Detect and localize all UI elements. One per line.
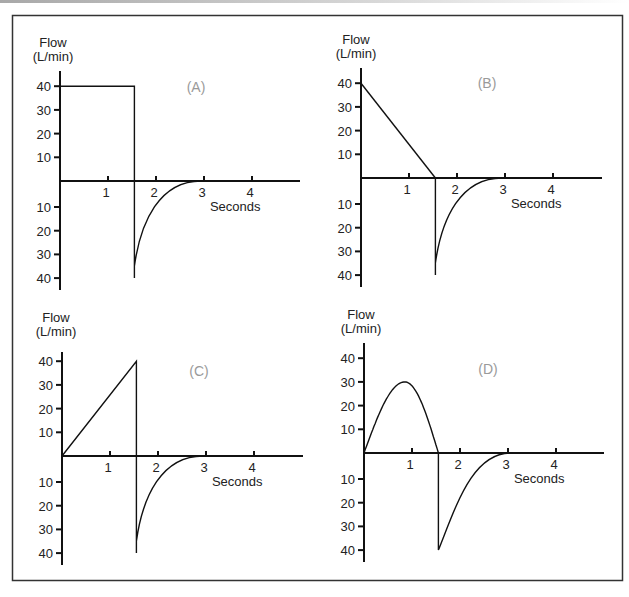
y-tick-label: 10 xyxy=(39,425,53,440)
x-tick-label: 1 xyxy=(104,460,111,475)
y-tick-label: 40 xyxy=(341,351,355,366)
y-tick-label: 20 xyxy=(338,221,352,236)
x-tick-label: 2 xyxy=(454,457,461,472)
figure-canvas: Flow(L/min)(A)40302010102030401234Second… xyxy=(0,0,629,597)
y-tick-label: 10 xyxy=(341,472,355,487)
y-tick-label: 30 xyxy=(39,378,53,393)
x-tick-label: 4 xyxy=(248,460,255,475)
x-tick-label: 1 xyxy=(406,457,413,472)
y-axis-title: Flow xyxy=(42,310,70,325)
y-tick-label: 30 xyxy=(341,375,355,390)
y-axis-units: (L/min) xyxy=(33,49,73,64)
y-tick-label: 40 xyxy=(39,354,53,369)
y-tick-label: 30 xyxy=(37,247,51,262)
y-tick-label: 30 xyxy=(338,244,352,259)
y-tick-label: 30 xyxy=(338,100,352,115)
y-tick-label: 10 xyxy=(338,147,352,162)
x-axis-title: Seconds xyxy=(210,199,261,214)
y-tick-label: 10 xyxy=(37,150,51,165)
y-tick-label: 40 xyxy=(37,79,51,94)
panel-label: (D) xyxy=(478,361,497,377)
y-tick-label: 20 xyxy=(39,402,53,417)
figure-frame xyxy=(13,16,623,581)
y-tick-label: 40 xyxy=(39,546,53,561)
y-tick-label: 20 xyxy=(341,399,355,414)
panel-label: (A) xyxy=(187,79,206,95)
y-tick-label: 20 xyxy=(39,499,53,514)
panel-label: (C) xyxy=(189,363,208,379)
y-tick-label: 40 xyxy=(341,543,355,558)
y-tick-label: 20 xyxy=(37,127,51,142)
y-tick-label: 10 xyxy=(37,200,51,215)
x-tick-label: 2 xyxy=(152,460,159,475)
y-tick-label: 40 xyxy=(37,271,51,286)
x-axis-title: Seconds xyxy=(212,474,263,489)
y-tick-label: 30 xyxy=(37,103,51,118)
y-axis-units: (L/min) xyxy=(36,324,76,339)
x-tick-label: 2 xyxy=(150,185,157,200)
y-tick-label: 30 xyxy=(341,519,355,534)
y-tick-label: 20 xyxy=(341,496,355,511)
y-axis-units: (L/min) xyxy=(336,46,376,61)
x-tick-label: 3 xyxy=(200,460,207,475)
x-tick-label: 3 xyxy=(499,182,506,197)
y-tick-label: 40 xyxy=(338,268,352,283)
x-tick-label: 3 xyxy=(198,185,205,200)
x-tick-label: 4 xyxy=(547,182,554,197)
x-tick-label: 1 xyxy=(403,182,410,197)
panel-label: (B) xyxy=(478,75,497,91)
x-tick-label: 2 xyxy=(451,182,458,197)
x-axis-title: Seconds xyxy=(514,471,565,486)
x-axis-title: Seconds xyxy=(511,196,562,211)
x-tick-label: 3 xyxy=(502,457,509,472)
y-tick-label: 30 xyxy=(39,522,53,537)
x-tick-label: 4 xyxy=(246,185,253,200)
y-tick-label: 20 xyxy=(37,224,51,239)
y-tick-label: 10 xyxy=(341,422,355,437)
y-tick-label: 40 xyxy=(338,76,352,91)
x-tick-label: 4 xyxy=(550,457,557,472)
y-tick-label: 10 xyxy=(39,475,53,490)
y-axis-title: Flow xyxy=(347,307,375,322)
y-tick-label: 10 xyxy=(338,197,352,212)
y-axis-title: Flow xyxy=(39,35,67,50)
y-axis-units: (L/min) xyxy=(341,321,381,336)
y-axis-title: Flow xyxy=(342,32,370,47)
x-tick-label: 1 xyxy=(102,185,109,200)
y-tick-label: 20 xyxy=(338,124,352,139)
